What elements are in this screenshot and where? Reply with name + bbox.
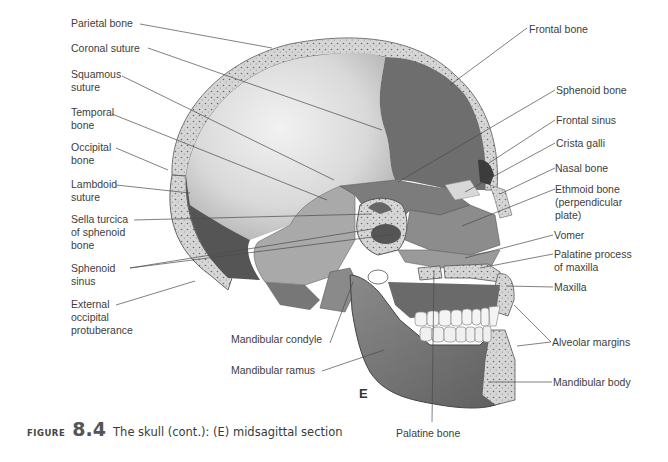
mastoid-region: [265, 282, 320, 310]
caption-prefix: FIGURE: [27, 428, 65, 438]
label-nasal-bone: Nasal bone: [555, 162, 608, 175]
label-parietal-bone: Parietal bone: [71, 17, 133, 30]
leader-occipital-bone: [116, 148, 168, 170]
label-temporal-bone: Temporal bone: [71, 106, 114, 132]
palatine-bone-shape: [418, 266, 442, 280]
label-crista-galli: Crista galli: [556, 137, 605, 150]
leader-nasal-bone: [500, 168, 555, 194]
label-maxilla: Maxilla: [554, 281, 587, 294]
label-external-occipital-protuberance: External occipital protuberance: [71, 298, 133, 337]
label-palatine-bone: Palatine bone: [396, 427, 460, 440]
label-frontal-bone: Frontal bone: [529, 23, 588, 36]
lower-teeth: [420, 326, 491, 342]
label-occipital-bone: Occipital bone: [71, 141, 111, 167]
label-palatine-process: Palatine process of maxilla: [554, 248, 632, 274]
leader-parietal-bone: [140, 24, 272, 48]
caption-text: The skull (cont.): (E) midsagittal secti…: [113, 425, 342, 439]
label-lambdoid-suture: Lambdoid suture: [71, 178, 117, 204]
figure-caption: FIGURE 8.4 The skull (cont.): (E) midsag…: [27, 418, 343, 440]
label-mandibular-ramus: Mandibular ramus: [231, 364, 315, 377]
caption-number: 8.4: [72, 418, 106, 440]
label-alveolar-margins: Alveolar margins: [552, 336, 630, 349]
label-mandibular-body: Mandibular body: [553, 376, 631, 389]
panel-letter: E: [359, 386, 368, 401]
foramen: [368, 270, 388, 284]
label-sphenoid-bone: Sphenoid bone: [556, 84, 627, 97]
label-coronal-suture: Coronal suture: [71, 42, 140, 55]
label-frontal-sinus: Frontal sinus: [556, 114, 616, 127]
label-sphenoid-sinus: Sphenoid sinus: [71, 262, 115, 288]
label-squamous-suture: Squamous suture: [71, 68, 121, 94]
label-sella-turcica: Sella turcica of sphenoid bone: [71, 213, 128, 252]
ethmoid-region: [405, 205, 500, 255]
sphenoid-sinus-cavity: [371, 224, 401, 244]
label-ethmoid-bone: Ethmoid bone (perpendicular plate): [555, 183, 622, 222]
frontal-region: [380, 58, 486, 190]
leader-frontal-bone: [450, 28, 527, 85]
label-mandibular-condyle: Mandibular condyle: [231, 333, 322, 346]
palatine-process-shape: [444, 264, 500, 282]
leader-alveolar-2: [517, 342, 551, 346]
leader-alveolar-1: [514, 305, 551, 342]
label-vomer: Vomer: [554, 229, 584, 242]
leader-frontal-sinus: [486, 120, 555, 165]
